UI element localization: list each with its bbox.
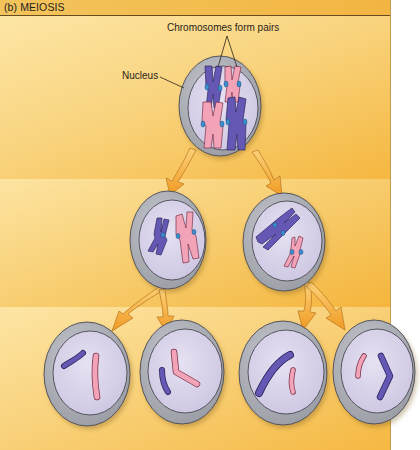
meiosis-diagram [0, 0, 420, 450]
chromosome-pink [95, 356, 97, 397]
nucleus-label: Nucleus [122, 70, 158, 81]
arrow-icon [166, 148, 196, 195]
daughter-cell-2 [243, 193, 325, 291]
nucleus [248, 330, 324, 414]
arrow-icon [112, 286, 165, 331]
parent-cell [179, 56, 261, 156]
nucleus [341, 329, 413, 413]
gamete-cell-4 [333, 320, 415, 424]
nucleus [188, 66, 258, 150]
chromosomes-form-pairs-label: Chromosomes form pairs [167, 22, 279, 33]
arrow-icon [306, 282, 345, 330]
chromosome-pink [292, 370, 294, 392]
nucleus [53, 331, 127, 415]
gamete-cell-3 [239, 321, 327, 425]
gamete-cell-1 [44, 322, 130, 426]
daughter-cell-1 [130, 191, 206, 289]
gamete-cell-2 [140, 320, 224, 424]
arrow-icon [252, 150, 282, 196]
